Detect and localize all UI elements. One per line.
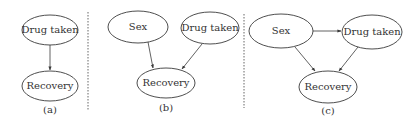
node-recovery: Recovery <box>137 68 195 98</box>
edge-sex-to-recovery <box>148 42 153 68</box>
edge-drug-to-recovery <box>182 44 202 69</box>
caption-a: (a) <box>43 104 57 115</box>
svg-text:Recovery: Recovery <box>304 81 351 92</box>
causal-diagrams: Drug taken Recovery (a) Sex Drug taken R… <box>0 0 414 122</box>
node-drug-taken: Drug taken <box>181 12 239 44</box>
node-recovery: Recovery <box>299 71 357 103</box>
caption-c: (c) <box>321 105 335 116</box>
panel-b: Sex Drug taken Recovery (b) <box>108 11 239 113</box>
panel-a: Drug taken Recovery (a) <box>21 15 79 115</box>
svg-text:Sex: Sex <box>272 25 291 36</box>
node-drug-taken: Drug taken <box>342 15 402 49</box>
svg-text:Sex: Sex <box>129 21 148 32</box>
edge-drug-to-recovery <box>339 47 358 71</box>
caption-b: (b) <box>159 102 173 113</box>
svg-text:Drug taken: Drug taken <box>181 22 239 33</box>
node-sex: Sex <box>108 11 168 43</box>
svg-text:Drug taken: Drug taken <box>21 24 79 35</box>
node-drug-taken: Drug taken <box>21 15 79 45</box>
node-sex: Sex <box>249 14 313 48</box>
node-recovery: Recovery <box>22 71 78 101</box>
panel-c: Sex Drug taken Recovery (c) <box>249 14 402 116</box>
edge-sex-to-recovery <box>295 47 315 71</box>
svg-text:Recovery: Recovery <box>26 80 73 91</box>
svg-text:Drug taken: Drug taken <box>343 26 401 37</box>
svg-text:Recovery: Recovery <box>142 77 189 88</box>
